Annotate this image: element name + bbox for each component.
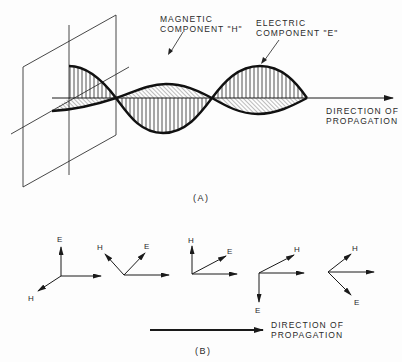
vector-5-h-label: H: [352, 244, 358, 253]
caption-a: (A): [193, 193, 210, 203]
direction-label-b-line1: DIRECTION OF: [271, 320, 344, 330]
caption-b: (B): [195, 346, 212, 356]
direction-label-a-line1: DIRECTION OF: [326, 106, 399, 116]
figure-b: [38, 246, 374, 330]
vector-set-1: [38, 247, 101, 291]
electric-label-line2: COMPONENT "E": [256, 28, 338, 38]
vector-3-e-label: E: [227, 247, 232, 256]
vector-set-4: [259, 255, 304, 302]
electric-label-line1: ELECTRIC: [256, 18, 306, 28]
vector-4-h-label: H: [294, 245, 300, 254]
vector-set-5: [328, 254, 374, 295]
vector-5-e-label: E: [354, 298, 359, 307]
magnetic-label-line1: MAGNETIC: [160, 14, 213, 24]
direction-label-a-line2: PROPAGATION: [326, 116, 398, 126]
vector-set-2: [105, 253, 169, 275]
vector-2-h-label: H: [97, 243, 103, 252]
vector-1-h-label: H: [28, 294, 34, 303]
magnetic-label-line2: COMPONENT "H": [160, 24, 243, 34]
vector-1-e-label: E: [57, 235, 62, 244]
magnetic-leader-line: [170, 32, 183, 53]
em-wave-diagram: [0, 0, 402, 362]
vector-2-e-label: E: [144, 242, 149, 251]
direction-label-b-line2: PROPAGATION: [271, 330, 343, 340]
electric-leader-line: [264, 40, 279, 61]
vector-4-e-label: E: [255, 306, 260, 315]
vector-3-h-label: H: [188, 236, 194, 245]
figure-a: [11, 15, 393, 187]
